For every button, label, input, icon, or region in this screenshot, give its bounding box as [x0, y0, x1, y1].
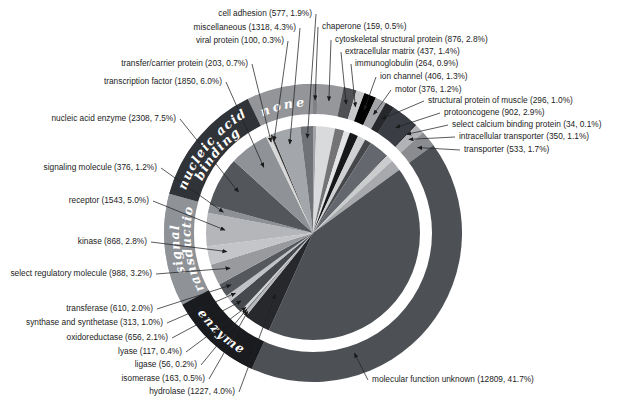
- label-miscellaneous: miscellaneous (1318, 4.3%): [194, 22, 297, 32]
- label-ion-channel: ion channel (406, 1.3%): [380, 71, 468, 81]
- label-cytoskeletal-structural-protein: cytoskeletal structural protein (876, 2.…: [335, 34, 488, 44]
- label-synthase-and-synthetase: synthase and synthetase (313, 1.0%): [26, 317, 163, 327]
- label-ligase: ligase (56, 0.2%): [135, 359, 197, 369]
- label-extracellular-matrix: extracellular matrix (437, 1.4%): [345, 46, 460, 56]
- label-select-regulatory-molecule: select regulatory molecule (988, 3.2%): [10, 268, 152, 278]
- label-transcription-factor: transcription factor (1850, 6.0%): [104, 76, 222, 86]
- label-signaling-molecule: signaling molecule (376, 1.2%): [44, 162, 158, 172]
- label-intracellular-transporter: intracellular transporter (350, 1.1%): [459, 131, 589, 141]
- label-motor: motor (376, 1.2%): [395, 84, 462, 94]
- label-select-calcium-binding-protein: select calcium binding protein (34, 0.1%…: [452, 119, 602, 129]
- pie-chart: nonenucleic acidbindingsignaltransductio…: [0, 0, 618, 399]
- label-chaperone: chaperone (159, 0.5%): [322, 21, 407, 31]
- label-lyase: lyase (117, 0.4%): [118, 346, 182, 356]
- label-transferase: transferase (610, 2.0%): [66, 303, 153, 313]
- label-kinase: kinase (868, 2.8%): [78, 236, 147, 246]
- label-viral-protein: viral protein (100, 0.3%): [196, 35, 284, 45]
- label-oxidoreductase: oxidoreductase (656, 2.1%): [67, 332, 169, 342]
- label-immunoglobulin: immunoglobulin (264, 0.9%): [355, 58, 459, 68]
- label-cell-adhesion: cell adhesion (577, 1.9%): [218, 8, 312, 18]
- label-hydrolase: hydrolase (1227, 4.0%): [149, 386, 235, 396]
- label-transporter: transporter (533, 1.7%): [464, 144, 550, 154]
- label-molecular-function-unknown: molecular function unknown (12809, 41.7%…: [372, 374, 534, 384]
- label-structural-protein-of-muscle: structural protein of muscle (296, 1.0%): [428, 95, 573, 105]
- label-nucleic-acid-enzyme: nucleic acid enzyme (2308, 7.5%): [51, 113, 176, 123]
- label-protooncogene: protooncogene (902, 2.9%): [444, 107, 545, 117]
- figure-canvas: nonenucleic acidbindingsignaltransductio…: [0, 0, 618, 399]
- label-transfer-carrier-protein: transfer/carrier protein (203, 0.7%): [121, 58, 248, 68]
- label-receptor: receptor (1543, 5.0%): [69, 195, 149, 205]
- label-isomerase: isomerase (163, 0.5%): [122, 373, 206, 383]
